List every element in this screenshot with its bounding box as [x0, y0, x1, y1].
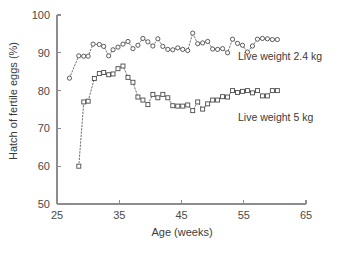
- data-point-marker: [171, 48, 175, 52]
- series-label-live-weight-2-4-kg: Live weight 2.4 kg: [238, 50, 322, 62]
- data-point-marker: [107, 73, 111, 77]
- data-point-marker: [97, 72, 101, 76]
- data-point-marker: [275, 37, 279, 41]
- y-tick-label: 50: [38, 198, 50, 210]
- data-point-marker: [116, 67, 120, 71]
- data-point-marker: [260, 94, 264, 98]
- data-point-marker: [265, 37, 269, 41]
- data-point-marker: [241, 89, 245, 93]
- data-point-marker: [92, 77, 96, 81]
- data-point-marker: [111, 72, 115, 76]
- data-point-marker: [126, 39, 130, 43]
- data-point-marker: [156, 37, 160, 41]
- x-tick-label: 35: [113, 209, 125, 221]
- data-point-marker: [206, 102, 210, 106]
- y-tick-label: 90: [38, 47, 50, 59]
- data-point-marker: [86, 99, 90, 103]
- data-point-marker: [245, 89, 249, 93]
- data-point-marker: [186, 103, 190, 107]
- series-label-live-weight-5-kg: Live weight 5 kg: [238, 111, 313, 123]
- data-point-marker: [82, 54, 86, 58]
- data-point-marker: [97, 42, 101, 46]
- data-point-marker: [191, 31, 195, 35]
- data-point-marker: [235, 41, 239, 45]
- x-tick-label: 55: [238, 209, 250, 221]
- data-point-marker: [151, 44, 155, 48]
- data-point-marker: [255, 89, 259, 93]
- data-point-marker: [146, 40, 150, 44]
- data-point-marker: [86, 54, 90, 58]
- series-labels: Live weight 2.4 kg Live weight 5 kg: [238, 50, 322, 123]
- x-axis-ticks: 2535455565: [51, 200, 312, 221]
- data-point-marker: [67, 76, 71, 80]
- data-point-marker: [136, 43, 140, 47]
- data-point-marker: [126, 75, 130, 79]
- data-point-marker: [102, 44, 106, 48]
- data-point-marker: [171, 104, 175, 108]
- data-point-marker: [161, 44, 165, 48]
- data-point-marker: [131, 47, 135, 51]
- data-point-marker: [121, 64, 125, 68]
- y-tick-label: 70: [38, 122, 50, 134]
- data-point-marker: [146, 103, 150, 107]
- data-point-marker: [77, 164, 81, 168]
- data-point-marker: [230, 37, 234, 41]
- chart-container: 1009080706050 Hatch of fertile eggs (%) …: [0, 0, 343, 257]
- data-point-marker: [211, 47, 215, 51]
- data-point-marker: [176, 104, 180, 108]
- data-point-marker: [225, 51, 229, 55]
- y-tick-label: 60: [38, 160, 50, 172]
- data-point-marker: [221, 95, 225, 99]
- data-point-marker: [181, 47, 185, 51]
- data-point-marker: [201, 107, 205, 111]
- data-point-marker: [270, 37, 274, 41]
- y-axis-title: Hatch of fertile eggs (%): [7, 42, 19, 160]
- data-point-marker: [270, 89, 274, 93]
- data-point-marker: [250, 91, 254, 95]
- data-point-marker: [131, 80, 135, 84]
- data-point-marker: [82, 100, 86, 104]
- data-point-marker: [275, 89, 279, 93]
- x-tick-label: 45: [175, 209, 187, 221]
- data-point-marker: [151, 92, 155, 96]
- data-point-marker: [250, 44, 254, 48]
- data-point-marker: [216, 98, 220, 102]
- data-point-marker: [236, 90, 240, 94]
- data-point-marker: [77, 54, 81, 58]
- data-point-marker: [161, 92, 165, 96]
- data-point-marker: [102, 70, 106, 74]
- data-point-marker: [141, 36, 145, 40]
- data-point-marker: [196, 42, 200, 46]
- data-point-marker: [196, 100, 200, 104]
- data-point-marker: [191, 109, 195, 113]
- y-tick-label: 80: [38, 85, 50, 97]
- data-point-marker: [201, 41, 205, 45]
- x-axis-title: Age (weeks): [151, 226, 212, 238]
- data-point-marker: [91, 42, 95, 46]
- data-point-marker: [260, 36, 264, 40]
- data-point-marker: [206, 39, 210, 43]
- data-point-marker: [116, 45, 120, 49]
- data-point-marker: [265, 94, 269, 98]
- data-point-marker: [181, 104, 185, 108]
- data-point-marker: [176, 46, 180, 50]
- data-point-marker: [211, 98, 215, 102]
- data-point-marker: [166, 47, 170, 51]
- data-point-marker: [240, 43, 244, 47]
- data-point-marker: [255, 37, 259, 41]
- data-point-marker: [107, 54, 111, 58]
- x-axis: 2535455565 Age (weeks): [51, 200, 312, 238]
- data-point-marker: [166, 96, 170, 100]
- data-point-marker: [136, 95, 140, 99]
- data-point-marker: [111, 48, 115, 52]
- data-point-marker: [121, 42, 125, 46]
- data-point-marker: [231, 89, 235, 93]
- x-tick-label: 25: [51, 209, 63, 221]
- data-point-marker: [216, 47, 220, 51]
- y-axis: 1009080706050 Hatch of fertile eggs (%): [7, 9, 61, 210]
- x-tick-label: 65: [300, 209, 312, 221]
- y-tick-label: 100: [32, 9, 50, 21]
- data-point-marker: [141, 98, 145, 102]
- data-point-marker: [156, 96, 160, 100]
- hatch-of-fertile-eggs-scatter-chart: 1009080706050 Hatch of fertile eggs (%) …: [0, 0, 343, 257]
